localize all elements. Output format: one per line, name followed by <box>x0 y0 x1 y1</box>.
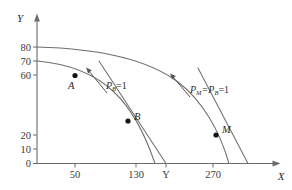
data-point-label-a: A <box>67 80 75 91</box>
x-tick-label-130: 130 <box>128 169 144 180</box>
price-line-b <box>99 61 166 164</box>
annotation-price-b-base: P <box>105 80 112 91</box>
annotation-price-m-b: PM=PB=1 <box>189 84 229 96</box>
y-tick-label-70: 70 <box>21 56 32 67</box>
outer-ppf-curve <box>37 47 229 164</box>
x-axis-arrow-icon <box>273 161 281 167</box>
y-tick-label-10: 10 <box>21 144 32 155</box>
curves-group <box>37 47 229 164</box>
data-point-b <box>125 118 130 123</box>
callout-line-price-m <box>173 77 191 98</box>
y-axis-ticks: 0 10 20 60 70 80 <box>21 42 38 170</box>
x-tick-label-50: 50 <box>70 169 81 180</box>
annotation-price-m-mid: =P <box>202 84 215 95</box>
callout-line-price-b <box>89 71 108 94</box>
data-point-a <box>72 73 77 78</box>
x-axis-title: X <box>277 170 286 182</box>
annotation-price-b-suffix: =1 <box>116 80 127 91</box>
y-tick-label-20: 20 <box>21 130 32 141</box>
data-point-m <box>213 132 218 137</box>
x-tick-label-y: Y <box>162 169 170 180</box>
data-point-label-b: B <box>134 111 141 122</box>
y-tick-label-80: 80 <box>21 42 32 53</box>
ppf-chart-figure: 0 10 20 60 70 80 50 130 Y 270 Y X <box>0 0 292 190</box>
y-tick-label-60: 60 <box>21 70 32 81</box>
data-point-label-m: M <box>221 124 232 135</box>
y-tick-label-0: 0 <box>26 158 31 169</box>
x-axis-ticks: 50 130 Y 270 <box>70 164 221 181</box>
data-points-group: A B M <box>67 73 232 138</box>
y-axis-arrow-icon <box>34 14 40 22</box>
y-axis-title: Y <box>17 12 25 24</box>
annotation-price-m-base: P <box>189 84 196 95</box>
price-line-m <box>198 68 248 164</box>
annotation-price-b: PB=1 <box>105 80 127 92</box>
annotation-price-m-suffix: =1 <box>218 84 229 95</box>
annotations-group: PB=1 PM=PB=1 <box>105 80 229 96</box>
chart-canvas: 0 10 20 60 70 80 50 130 Y 270 Y X <box>0 0 292 190</box>
x-tick-label-270: 270 <box>205 169 221 180</box>
